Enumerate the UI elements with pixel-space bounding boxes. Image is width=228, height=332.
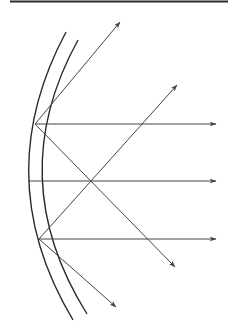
concave-mirror-ray-diagram [0, 0, 228, 332]
ray-lower-diagonal-up-arrow [39, 85, 177, 239]
mirror [29, 32, 87, 320]
light-rays [28, 22, 216, 307]
ray-upper-diagonal-down-arrow [35, 124, 175, 267]
